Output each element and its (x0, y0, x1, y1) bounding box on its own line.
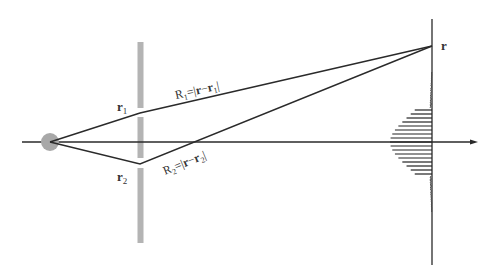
observation-point-label: r (441, 38, 447, 53)
double-slit-diagram: r1 r2 r R1=|r−r1| R2=|r−r2| (0, 0, 499, 276)
path-via-slit-1 (50, 46, 432, 142)
barrier-top-segment (138, 42, 144, 108)
slit-2-label: r2 (117, 169, 127, 186)
axis-arrowhead-icon (470, 140, 478, 145)
slit-1-label: r1 (117, 99, 127, 116)
path-via-slit-2 (50, 46, 432, 164)
barrier-middle-segment (138, 117, 144, 158)
interference-fringe-pattern (390, 110, 432, 174)
diagram-canvas: r1 r2 r R1=|r−r1| R2=|r−r2| (0, 0, 499, 276)
barrier-bottom-segment (138, 168, 144, 243)
